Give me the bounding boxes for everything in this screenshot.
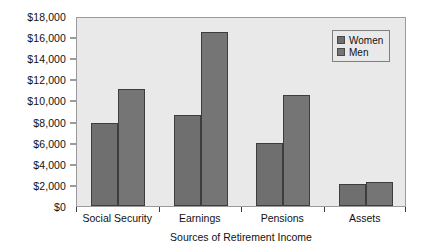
x-axis-category-label: Earnings [179, 212, 220, 224]
x-axis-title: Sources of Retirement Income [76, 231, 406, 243]
bar [339, 184, 366, 206]
y-axis-tick-label: $2,000 [33, 180, 66, 192]
x-axis-category-labels: Social SecurityEarningsPensionsAssets [76, 212, 406, 228]
y-axis-tick-label: $18,000 [27, 11, 66, 23]
y-axis-tick-label: $12,000 [27, 74, 66, 86]
bar [118, 89, 145, 206]
y-axis-tick-label: $6,000 [33, 138, 66, 150]
bar [283, 95, 310, 206]
bar [91, 123, 118, 206]
bar [174, 115, 201, 206]
bar [256, 143, 283, 206]
legend-item: Men [337, 46, 383, 58]
bar [366, 182, 393, 206]
x-axis-category-label: Social Security [83, 212, 152, 224]
y-axis-tick-label: $8,000 [33, 117, 66, 129]
bar-chart: $0$2,000$4,000$6,000$8,000$10,000$12,000… [0, 0, 423, 252]
x-axis-category-label: Assets [349, 212, 381, 224]
legend-swatch-icon [337, 48, 345, 56]
y-axis: $0$2,000$4,000$6,000$8,000$10,000$12,000… [0, 0, 76, 252]
legend-swatch-icon [337, 36, 345, 44]
y-axis-tick-label: $4,000 [33, 159, 66, 171]
y-axis-tick-label: $10,000 [27, 95, 66, 107]
x-axis-category-label: Pensions [261, 212, 304, 224]
y-axis-tick-label: $16,000 [27, 32, 66, 44]
legend-label: Men [349, 47, 368, 58]
y-axis-tick-label: $0 [54, 201, 66, 213]
y-axis-tick-label: $14,000 [27, 53, 66, 65]
bar [201, 32, 228, 206]
legend-item: Women [337, 34, 383, 46]
legend-label: Women [349, 35, 383, 46]
chart-legend: WomenMen [332, 30, 390, 62]
